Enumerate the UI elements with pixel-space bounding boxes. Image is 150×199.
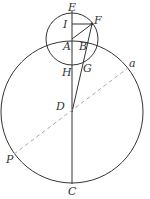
label-A: A (62, 40, 71, 53)
label-I: I (62, 18, 68, 31)
label-G: G (83, 62, 92, 75)
label-a: a (129, 57, 136, 70)
label-B: B (78, 40, 87, 53)
dashed-line-Pa (14, 68, 128, 154)
geometry-diagram: E I F A B H G a D P C (0, 0, 150, 199)
label-C: C (68, 185, 77, 198)
label-P: P (5, 153, 14, 166)
label-D: D (55, 100, 65, 113)
label-H: H (61, 66, 72, 79)
label-E: E (67, 1, 76, 14)
label-F: F (93, 14, 102, 27)
point-F (91, 23, 94, 26)
